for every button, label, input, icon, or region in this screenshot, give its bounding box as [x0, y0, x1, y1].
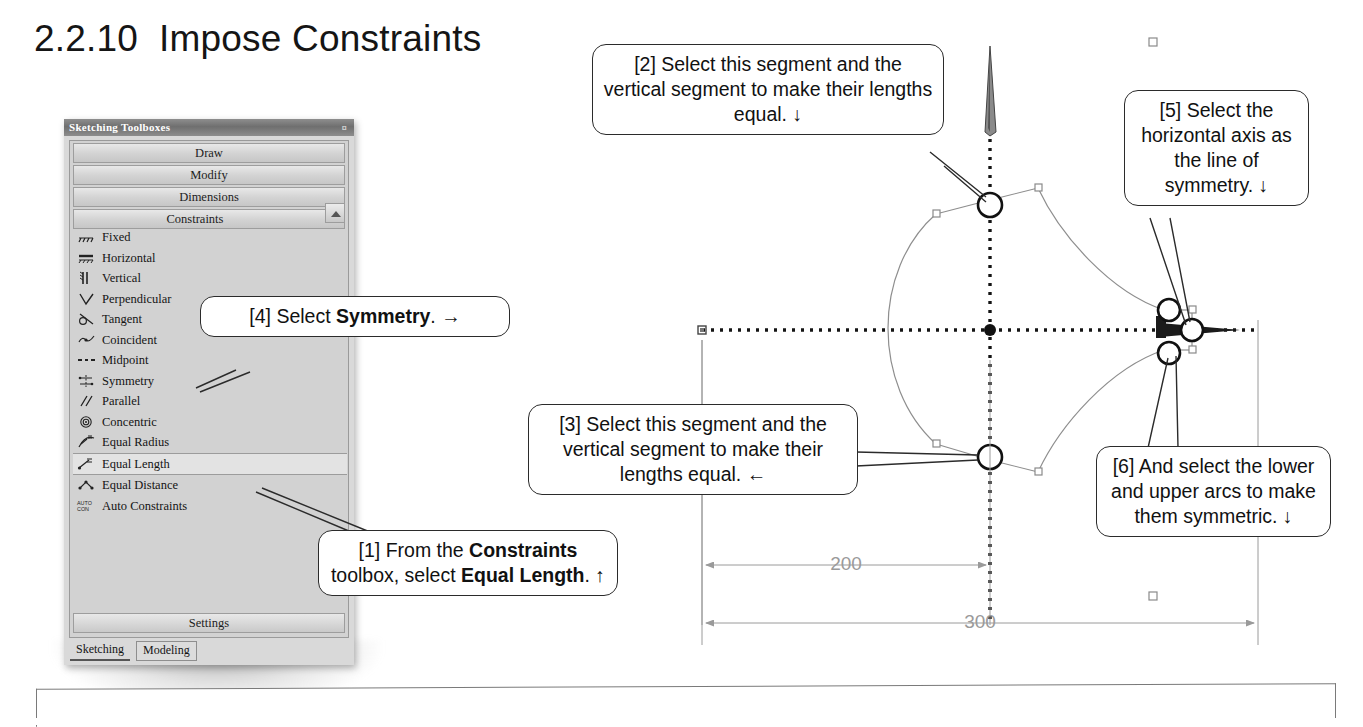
callout-1-text-2: toolbox, select [331, 564, 461, 586]
callout-1-text-1: [1] From the [359, 539, 470, 561]
callout-1: [1] From the Constraints toolbox, select… [318, 530, 618, 596]
callout-4-bold-1: Symmetry [336, 305, 430, 327]
callout-2: [2] Select this segment and the vertical… [592, 44, 944, 135]
callout-1-bold-1: Constraints [469, 539, 577, 561]
callout-4-text-2: . → [430, 305, 460, 327]
callout-1-bold-2: Equal Length [461, 564, 585, 586]
callout-4-text-1: [4] Select [249, 305, 336, 327]
callout-1-text-3: . ↑ [584, 564, 605, 586]
callout-3: [3] Select this segment and the vertical… [528, 404, 858, 495]
callout-5: [5] Select the horizontal axis as the li… [1124, 90, 1309, 206]
callout-6: [6] And select the lower and upper arcs … [1096, 446, 1331, 537]
callout-4: [4] Select Symmetry. → [200, 296, 510, 337]
